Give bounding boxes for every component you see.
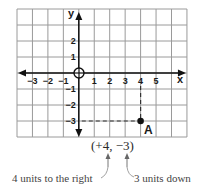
- y-tick-label: −1: [66, 84, 76, 94]
- x-tick-label: −2: [43, 76, 53, 86]
- point-a-label: A: [144, 123, 153, 137]
- arrow-up-icon: [125, 153, 130, 167]
- y-tick-label: −3: [66, 116, 76, 126]
- arrow-up-icon: [75, 12, 82, 20]
- point-a: [137, 118, 144, 125]
- x-tick-label: 4: [138, 76, 143, 86]
- arrow-left-icon: [18, 70, 26, 77]
- coordinate-text: (+4, −3): [91, 138, 134, 153]
- y-tick-label: −2: [66, 100, 76, 110]
- y-tick-label: 2: [71, 36, 76, 46]
- x-axis-label: x: [177, 73, 184, 85]
- y-axis-label: y: [68, 7, 75, 19]
- x-tick-label: −3: [27, 76, 37, 86]
- coordinate-plane-figure: −3−2−11234521−1−2−3 y x A (+4, −3) 4 uni…: [0, 0, 202, 189]
- x-tick-label: 2: [107, 76, 112, 86]
- x-tick-label: 5: [154, 76, 159, 86]
- dashed-guides: [82, 86, 141, 121]
- arrow-down-icon: [75, 129, 82, 137]
- note-four-units-right: 4 units to the right: [12, 172, 93, 184]
- axes: [18, 12, 186, 137]
- x-tick-label: 1: [92, 76, 97, 86]
- note-three-units-down: 3 units down: [134, 172, 191, 184]
- leader-line-left: [101, 167, 108, 178]
- leader-line-right: [127, 167, 134, 177]
- arrow-up-icon: [106, 153, 111, 167]
- y-tick-label: 1: [71, 52, 76, 62]
- x-tick-label: 3: [123, 76, 128, 86]
- tick-labels: −3−2−11234521−1−2−3: [27, 36, 158, 126]
